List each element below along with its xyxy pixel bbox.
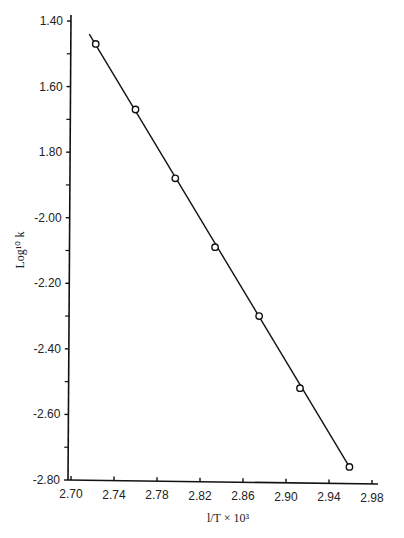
y-tick-label: 1.80	[39, 145, 63, 159]
data-point	[256, 313, 262, 319]
y-tick-label: -2.80	[33, 473, 61, 487]
x-tick-label: 2.70	[59, 487, 83, 501]
fit-line	[89, 34, 349, 467]
data-point	[297, 385, 303, 391]
y-tick-label: -2.40	[33, 342, 61, 356]
data-point	[132, 106, 138, 112]
x-tick-label: 2.74	[102, 488, 126, 502]
x-tick-label: 2.90	[274, 490, 298, 504]
y-axis-line	[68, 15, 71, 480]
y-tick-label: -2.00	[34, 211, 62, 225]
data-point	[212, 244, 218, 250]
y-tick-label: 1.40	[40, 14, 64, 28]
axes	[68, 15, 378, 484]
ticks: 1.401.601.80-2.00-2.20-2.40-2.60-2.802.7…	[33, 14, 384, 505]
x-tick-label: 2.86	[231, 489, 255, 503]
y-tick-label: 1.60	[39, 80, 63, 94]
fit-line-group	[89, 34, 349, 467]
y-tick-label: -2.60	[33, 407, 61, 421]
data-point	[346, 464, 352, 470]
x-tick-label: 2.94	[317, 490, 341, 504]
y-tick-label: -2.20	[34, 276, 62, 290]
x-axis-label: l/T × 10³	[207, 511, 250, 525]
chart: 1.401.601.80-2.00-2.20-2.40-2.60-2.802.7…	[0, 0, 404, 538]
x-tick-label: 2.78	[145, 488, 169, 502]
y-axis-label: Log¹⁰ k	[13, 232, 27, 269]
x-tick-label: 2.98	[360, 491, 384, 505]
x-tick-label: 2.82	[188, 489, 212, 503]
data-point	[172, 175, 178, 181]
data-point	[93, 41, 99, 47]
x-axis-line	[68, 480, 378, 484]
